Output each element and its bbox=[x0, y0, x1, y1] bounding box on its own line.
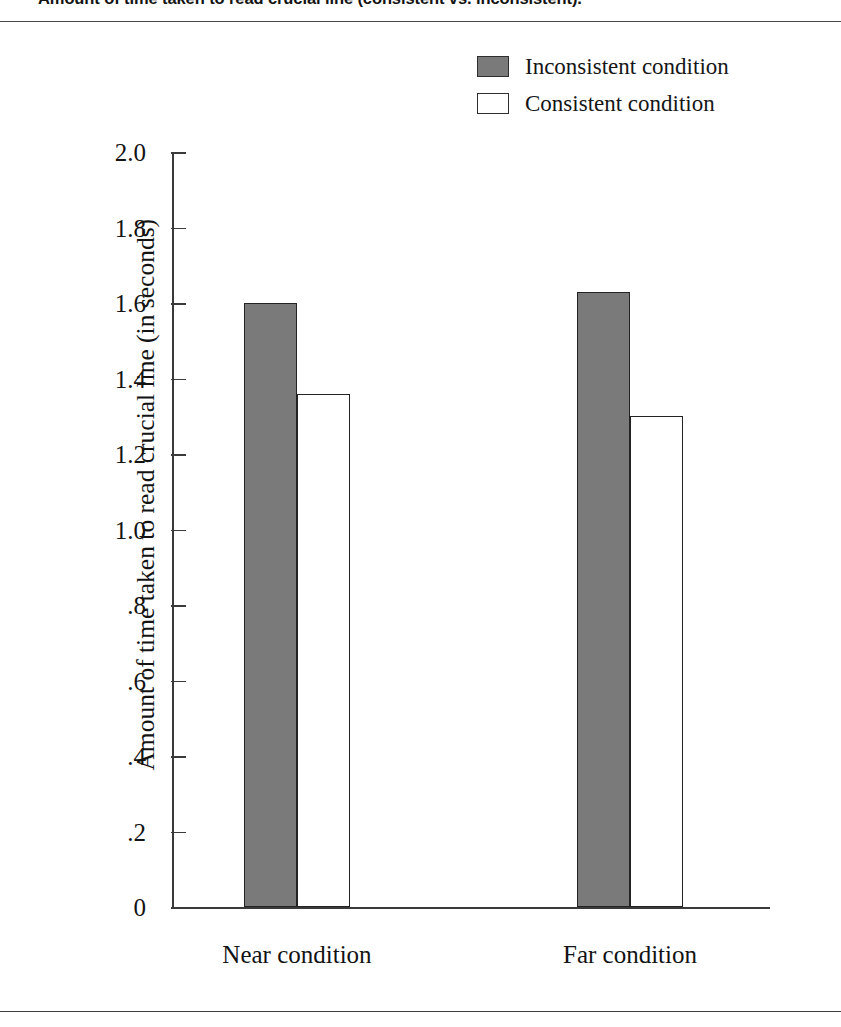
y-axis-tick-label: 1.8 bbox=[26, 216, 146, 241]
figure-caption: Amount of time taken to read crucial lin… bbox=[38, 0, 828, 8]
legend-label-inconsistent: Inconsistent condition bbox=[525, 55, 729, 78]
legend-swatch-icon-inconsistent bbox=[477, 56, 509, 77]
legend-label-consistent: Consistent condition bbox=[525, 92, 715, 115]
legend-item-inconsistent: Inconsistent condition bbox=[477, 48, 729, 85]
chart-legend: Inconsistent condition Consistent condit… bbox=[477, 48, 729, 122]
y-axis-tick bbox=[171, 681, 186, 682]
bar-far-consistent bbox=[630, 416, 683, 907]
bar-near-inconsistent bbox=[244, 303, 297, 907]
y-axis-tick bbox=[171, 228, 186, 229]
legend-swatch-icon-consistent bbox=[477, 93, 509, 114]
y-axis-tick bbox=[171, 303, 186, 304]
y-axis-tick bbox=[171, 530, 186, 531]
x-axis-category-label: Near condition bbox=[184, 942, 410, 967]
legend-item-consistent: Consistent condition bbox=[477, 85, 729, 122]
y-axis-tick bbox=[171, 152, 186, 153]
x-axis-line bbox=[172, 907, 770, 909]
y-axis-tick bbox=[171, 756, 186, 757]
y-axis-tick-label: 1.2 bbox=[26, 442, 146, 467]
y-axis-title: Amount of time taken to read crucial lin… bbox=[133, 45, 159, 945]
y-axis-tick bbox=[171, 605, 186, 606]
bar-far-inconsistent bbox=[577, 292, 630, 907]
y-axis-tick-label: .4 bbox=[26, 744, 146, 769]
y-axis-tick-label: 1.4 bbox=[26, 367, 146, 392]
figure-caption-clip: Amount of time taken to read crucial lin… bbox=[0, 0, 841, 15]
bar-near-consistent bbox=[297, 394, 350, 907]
y-axis-tick-label: 1.6 bbox=[26, 291, 146, 316]
y-axis-tick-label: 0 bbox=[26, 895, 146, 920]
footer-divider bbox=[0, 1011, 841, 1012]
y-axis-tick bbox=[171, 454, 186, 455]
y-axis-tick-label: .2 bbox=[26, 820, 146, 845]
y-axis-tick-label: .8 bbox=[26, 593, 146, 618]
y-axis-tick bbox=[171, 379, 186, 380]
y-axis-tick-label: 1.0 bbox=[26, 518, 146, 543]
y-axis-tick bbox=[171, 832, 186, 833]
y-axis-tick-label: .6 bbox=[26, 669, 146, 694]
y-axis-tick-label: 2.0 bbox=[26, 140, 146, 165]
header-divider bbox=[0, 21, 841, 22]
x-axis-category-label: Far condition bbox=[517, 942, 743, 967]
bar-chart-plot-area: 2.01.81.61.41.21.0.8.6.4.20 Near conditi… bbox=[172, 152, 770, 908]
y-axis-tick bbox=[171, 907, 186, 908]
